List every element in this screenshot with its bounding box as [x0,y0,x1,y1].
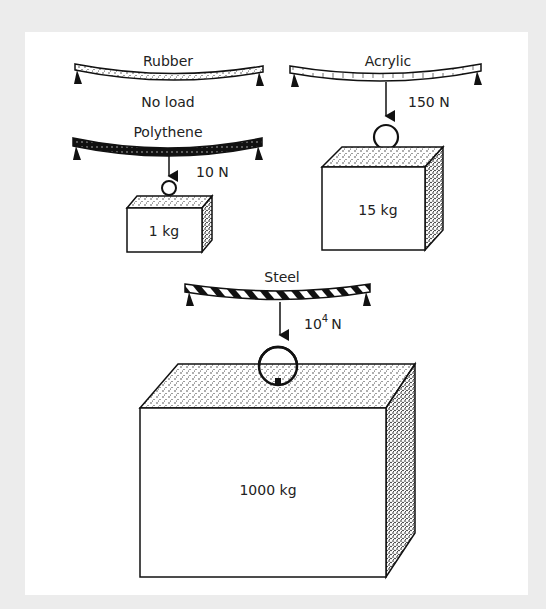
polythene-beam-group: Polythene 10 N 1 kg [73,124,263,252]
left-support-icon [74,70,82,84]
hook-eye-icon [275,378,281,384]
mass-box-top [322,147,443,167]
rubber-label: Rubber [143,53,193,69]
right-support-icon [363,292,371,306]
right-support-icon [255,146,263,160]
steel-label: Steel [264,269,300,285]
force-label: 150 N [408,94,450,110]
polythene-beam [73,138,262,156]
left-support-icon [186,292,194,306]
rubber-beam-group: Rubber No load [74,53,264,110]
mass-box-top [127,196,212,208]
right-support-icon [474,71,482,85]
hook-ring-icon [162,181,176,195]
no-load-label: No load [141,94,194,110]
left-support-icon [291,73,299,87]
acrylic-beam-group: Acrylic 150 N 15 kg [290,53,482,250]
beam-deflection-diagram: Rubber No load Polythene 10 N 1 kg Acryl… [0,0,546,609]
mass-label: 1000 kg [239,482,296,498]
polythene-label: Polythene [133,124,202,140]
mass-label: 1 kg [149,223,179,239]
mass-label: 15 kg [358,202,397,218]
steel-beam-group: Steel 104N 1000 kg [140,269,415,577]
steel-beam [185,284,370,300]
right-support-icon [256,72,264,86]
force-label: 10 N [196,164,229,180]
hook-ring-icon [374,125,398,149]
acrylic-label: Acrylic [365,53,412,69]
force-label: 104N [304,313,342,332]
